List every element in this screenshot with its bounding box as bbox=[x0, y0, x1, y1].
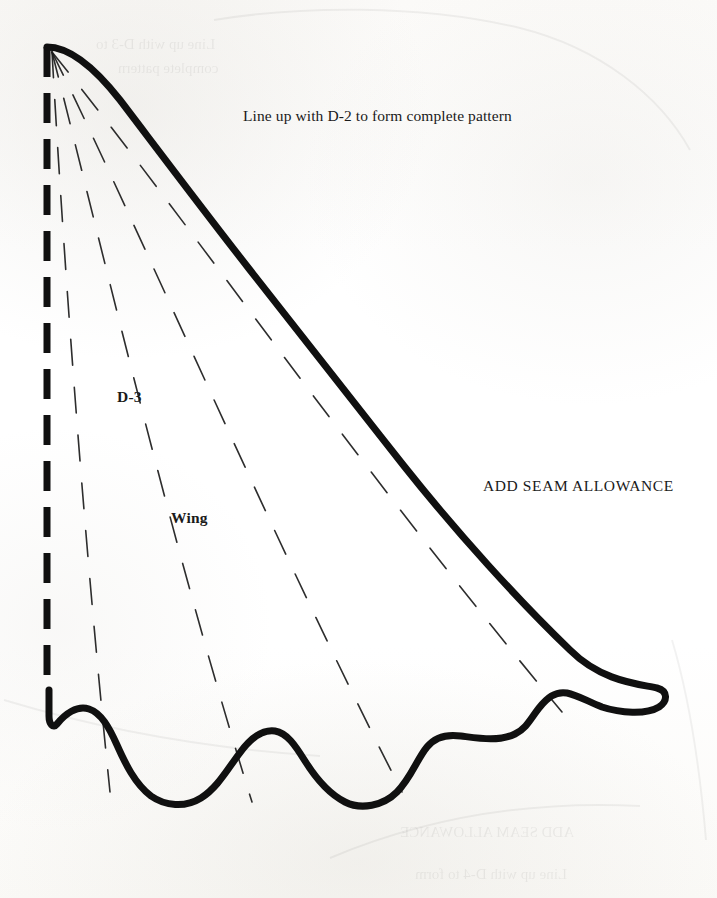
wing-outline-cut-line bbox=[47, 47, 666, 806]
piece-name-label: Wing bbox=[171, 510, 208, 526]
fan-line-2 bbox=[52, 52, 252, 802]
pattern-drawing bbox=[0, 0, 717, 898]
fan-line-4 bbox=[52, 52, 562, 712]
fan-line-1 bbox=[52, 52, 110, 792]
pattern-sheet: Line up with D-3 to complete pattern ADD… bbox=[0, 0, 717, 898]
feather-fan-lines bbox=[52, 52, 562, 802]
alignment-note-label: Line up with D-2 to form complete patter… bbox=[243, 108, 512, 124]
piece-code-label: D-3 bbox=[117, 389, 142, 405]
fan-line-3 bbox=[52, 52, 402, 792]
seam-allowance-note-label: ADD SEAM ALLOWANCE bbox=[483, 478, 674, 494]
